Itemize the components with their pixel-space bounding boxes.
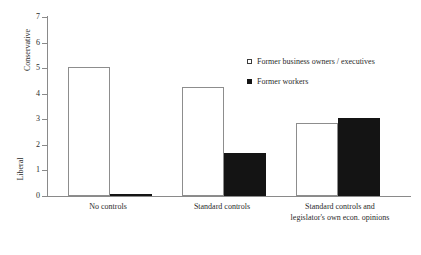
- legend-item-former-workers: Former workers: [247, 77, 375, 86]
- x-axis-group-label-3-line1: Standard controls and: [267, 202, 413, 213]
- x-axis-group-label-1: No controls: [48, 202, 168, 213]
- legend-swatch-hollow-icon: [247, 59, 252, 64]
- x-axis-group-label-3: Standard controls and legislator's own e…: [267, 202, 413, 223]
- legend-label-former-workers: Former workers: [257, 77, 308, 86]
- legend-item-former-business-owners: Former business owners / executives: [247, 57, 375, 66]
- bar-hollow-group-1: [68, 67, 110, 196]
- x-axis-group-label-3-line2: legislator's own econ. opinions: [267, 213, 413, 224]
- y-tick-label-3: 3: [26, 115, 40, 123]
- bar-hollow-group-3: [296, 123, 338, 196]
- bar-solid-group-1: [110, 194, 152, 196]
- plot-area: [47, 17, 411, 196]
- bar-solid-group-2: [224, 153, 266, 196]
- bar-chart-figure: 7 6 5 4 3 2 1 0 Conservative Liberal No …: [0, 0, 421, 255]
- x-axis-group-label-1-line1: No controls: [48, 202, 168, 213]
- x-axis-line: [47, 196, 411, 197]
- legend-swatch-solid-icon: [247, 79, 252, 84]
- y-axis-label-conservative: Conservative: [24, 20, 32, 80]
- y-tick-label-2: 2: [26, 141, 40, 149]
- y-tick-label-1: 1: [26, 166, 40, 174]
- y-tick-mark-0: [42, 196, 48, 197]
- y-tick-label-4: 4: [26, 90, 40, 98]
- y-axis-label-liberal: Liberal: [17, 149, 25, 189]
- bar-solid-group-3: [338, 118, 380, 196]
- legend-label-former-business-owners: Former business owners / executives: [257, 57, 375, 66]
- legend: Former business owners / executives Form…: [247, 57, 375, 97]
- bar-hollow-group-2: [182, 87, 224, 196]
- y-tick-label-0: 0: [26, 192, 40, 200]
- x-axis-group-label-2-line1: Standard controls: [162, 202, 282, 213]
- x-axis-group-label-2: Standard controls: [162, 202, 282, 213]
